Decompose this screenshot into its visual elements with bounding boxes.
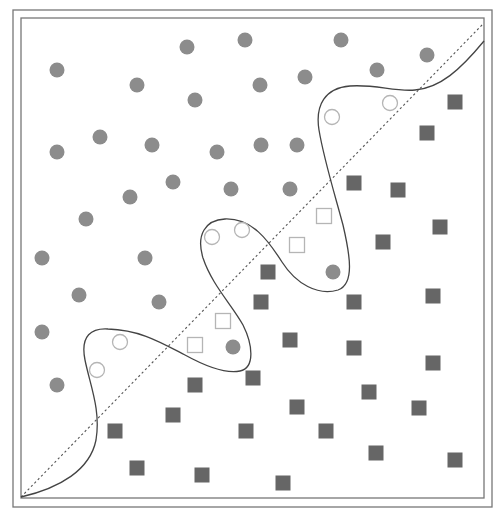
class-b-point	[448, 453, 463, 468]
class-b-point	[376, 235, 391, 250]
class-b-point	[166, 408, 181, 423]
class-a-point	[35, 325, 50, 340]
class-b-filled-squares	[108, 95, 463, 491]
class-a-point	[210, 145, 225, 160]
class-a-point	[188, 93, 203, 108]
class-a-point	[50, 145, 65, 160]
class-a-point	[370, 63, 385, 78]
class-b-point	[195, 468, 210, 483]
class-b-point	[319, 424, 334, 439]
class-a-misclassified-point	[90, 363, 105, 378]
class-a-point	[35, 251, 50, 266]
class-a-point	[326, 265, 341, 280]
class-a-point	[93, 130, 108, 145]
class-a-point	[145, 138, 160, 153]
class-b-point	[420, 126, 435, 141]
class-b-misclassified-point	[317, 209, 332, 224]
class-a-point	[298, 70, 313, 85]
class-b-point	[254, 295, 269, 310]
class-b-point	[188, 378, 203, 393]
class-a-misclassified-point	[325, 110, 340, 125]
class-a-hollow-circles	[90, 96, 398, 378]
class-b-point	[276, 476, 291, 491]
class-b-misclassified-point	[216, 314, 231, 329]
class-a-point	[420, 48, 435, 63]
class-a-misclassified-point	[205, 230, 220, 245]
class-a-point	[130, 78, 145, 93]
class-a-point	[226, 340, 241, 355]
class-b-point	[433, 220, 448, 235]
class-a-point	[224, 182, 239, 197]
class-a-point	[50, 378, 65, 393]
class-a-misclassified-point	[113, 335, 128, 350]
class-b-point	[426, 289, 441, 304]
class-b-point	[362, 385, 377, 400]
class-b-point	[347, 176, 362, 191]
class-b-misclassified-point	[290, 238, 305, 253]
class-a-point	[138, 251, 153, 266]
class-b-point	[130, 461, 145, 476]
class-a-point	[166, 175, 181, 190]
class-b-point	[108, 424, 123, 439]
class-b-point	[412, 401, 427, 416]
class-b-point	[239, 424, 254, 439]
class-b-point	[448, 95, 463, 110]
classification-diagram	[0, 0, 502, 517]
class-b-point	[391, 183, 406, 198]
class-a-misclassified-point	[235, 223, 250, 238]
class-a-point	[79, 212, 94, 227]
class-b-point	[369, 446, 384, 461]
class-b-point	[290, 400, 305, 415]
class-b-point	[261, 265, 276, 280]
class-a-point	[50, 63, 65, 78]
class-b-point	[347, 341, 362, 356]
class-a-point	[334, 33, 349, 48]
class-a-point	[72, 288, 87, 303]
class-a-point	[180, 40, 195, 55]
class-a-misclassified-point	[383, 96, 398, 111]
class-a-point	[290, 138, 305, 153]
class-b-point	[283, 333, 298, 348]
class-b-misclassified-point	[188, 338, 203, 353]
class-a-point	[283, 182, 298, 197]
class-b-point	[347, 295, 362, 310]
class-b-point	[426, 356, 441, 371]
class-a-point	[123, 190, 138, 205]
class-a-point	[238, 33, 253, 48]
class-a-point	[254, 138, 269, 153]
class-a-point	[152, 295, 167, 310]
class-a-point	[253, 78, 268, 93]
class-b-point	[246, 371, 261, 386]
